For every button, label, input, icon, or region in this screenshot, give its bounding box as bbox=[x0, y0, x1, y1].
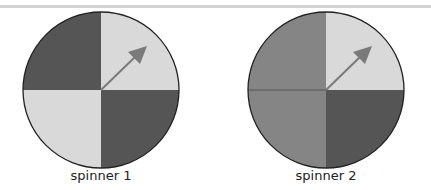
quadrant-bottom-right bbox=[326, 90, 404, 168]
quadrant-bottom-left bbox=[23, 90, 101, 168]
spinner-1-label: spinner 1 bbox=[41, 168, 161, 183]
quadrant-top-left bbox=[23, 12, 101, 90]
spinner-2-wheel bbox=[215, 0, 431, 190]
spinner-2-label: spinner 2 bbox=[266, 168, 386, 183]
quadrant-top-left bbox=[248, 12, 326, 90]
quadrant-bottom-right bbox=[101, 90, 179, 168]
spinner-1-wheel bbox=[0, 0, 215, 190]
quadrant-bottom-left bbox=[248, 90, 326, 168]
